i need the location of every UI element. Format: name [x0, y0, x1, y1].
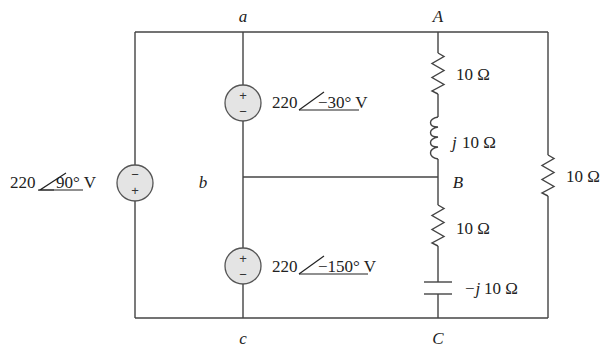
resistor-BC-label: 10 Ω — [456, 219, 490, 238]
svg-text:90° V: 90° V — [56, 173, 97, 192]
circuit-diagram: − + + − + − a A b B c C 220 90° V 220 −3… — [0, 0, 614, 353]
svg-text:j: j — [450, 133, 457, 152]
node-B-label: B — [453, 173, 464, 192]
node-b-label: b — [199, 173, 208, 192]
svg-text:−150° V: −150° V — [318, 257, 377, 276]
svg-text:10 Ω: 10 Ω — [484, 279, 518, 298]
resistor-AB-label: 10 Ω — [456, 65, 490, 84]
svg-text:+: + — [131, 183, 139, 198]
inductor-AB-label: j 10 Ω — [450, 133, 496, 152]
resistor-AC-label: 10 Ω — [566, 167, 600, 186]
node-a-label: a — [239, 7, 248, 26]
svg-text:+: + — [239, 251, 247, 266]
capacitor-BC-label: −j 10 Ω — [464, 279, 518, 298]
svg-text:−: − — [239, 104, 247, 119]
svg-text:+: + — [239, 88, 247, 103]
svg-text:−30° V: −30° V — [318, 93, 368, 112]
resistor-AB-icon — [432, 53, 444, 94]
node-c-label: c — [239, 329, 247, 348]
resistor-AC-icon — [542, 155, 554, 196]
source-left-label: 220 90° V — [10, 173, 97, 192]
resistor-BC-icon — [432, 205, 444, 246]
voltage-source-bc-icon: + − — [225, 248, 261, 284]
svg-text:220: 220 — [272, 93, 298, 112]
svg-text:−j: −j — [464, 279, 480, 298]
node-C-label: C — [432, 329, 444, 348]
svg-text:10 Ω: 10 Ω — [462, 133, 496, 152]
svg-text:220: 220 — [10, 173, 36, 192]
inductor-AB-icon — [431, 117, 439, 159]
capacitor-BC-icon — [424, 282, 452, 294]
source-ab-label: 220 −30° V — [272, 92, 368, 112]
svg-text:−: − — [131, 167, 139, 182]
svg-text:220: 220 — [272, 257, 298, 276]
voltage-source-left-icon: − + — [117, 165, 153, 201]
voltage-source-ab-icon: + − — [225, 85, 261, 121]
svg-text:−: − — [239, 267, 247, 282]
source-bc-label: 220 −150° V — [272, 256, 377, 276]
node-A-label: A — [432, 7, 444, 26]
